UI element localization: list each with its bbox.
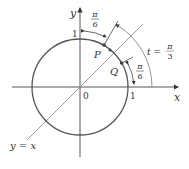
point-p — [102, 43, 106, 47]
point-mid — [109, 49, 112, 52]
y-axis-label: y — [69, 7, 77, 20]
ray-pi-over-3 — [104, 21, 118, 45]
arc-right-pi-6 — [128, 64, 134, 84]
line-y-equals-x — [27, 24, 143, 140]
x-axis-label: x — [174, 91, 181, 104]
point-q-label: Q — [110, 66, 118, 77]
t-num: π — [166, 42, 173, 51]
unit-circle-diagram: y x 0 1 1 y = x P Q π 6 π 6 t = π 3 — [0, 0, 189, 169]
arc-top-pi-6 — [84, 31, 106, 37]
point-q — [120, 61, 124, 65]
point-p-label: P — [93, 49, 101, 60]
t-label: t = — [147, 47, 161, 57]
t-den: 3 — [167, 52, 172, 61]
top-angle-num: π — [91, 10, 98, 19]
origin-label: 0 — [83, 91, 89, 101]
ray-pi-over-6 — [122, 57, 133, 63]
top-angle-den: 6 — [92, 20, 97, 29]
right-angle-den: 6 — [137, 72, 142, 81]
x-tick-label: 1 — [130, 91, 136, 101]
line-label: y = x — [9, 140, 36, 151]
right-angle-num: π — [136, 62, 143, 71]
y-tick-label: 1 — [72, 29, 78, 39]
